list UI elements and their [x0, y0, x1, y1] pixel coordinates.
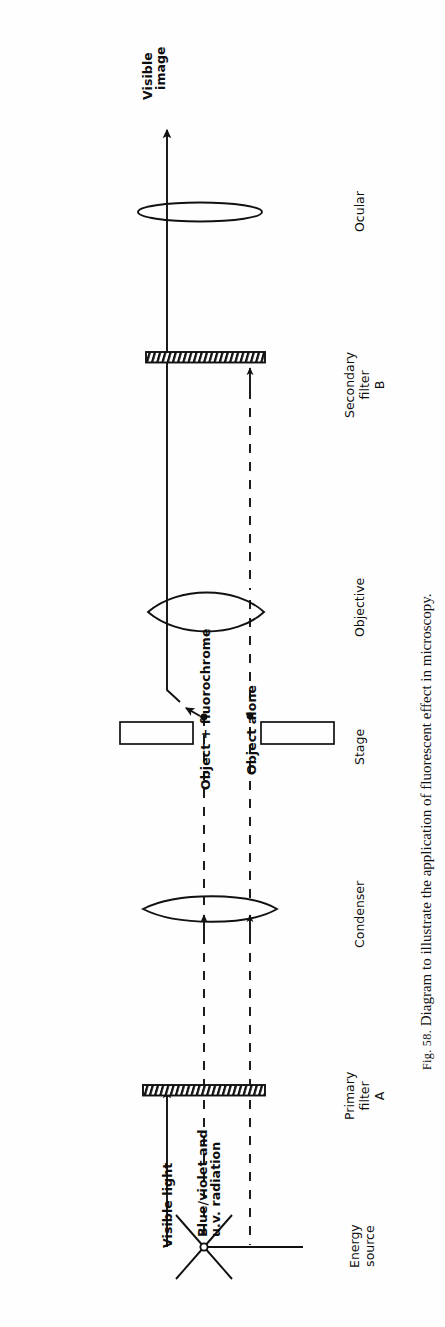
blue-violet-line2: u.v. radiation: [210, 1129, 223, 1237]
component-label-energy-source: Energy source: [347, 1224, 377, 1268]
visible-light-label: Visible light: [160, 1163, 175, 1248]
object-fluorochrome-ray: [167, 640, 200, 716]
objective-label-line1: Objective: [352, 578, 367, 637]
component-label-secondary-filter: Secondary filter B: [342, 352, 387, 418]
stage: [120, 722, 334, 744]
ocular-lens: [138, 203, 262, 222]
secondary-filter-line2: filter: [357, 352, 372, 418]
ocular-label-line1: Ocular: [352, 191, 367, 232]
figure-page: Visible image Visible light Blue/violet …: [0, 0, 445, 1327]
object-fluorochrome-label: Object + fluorochrome: [198, 628, 213, 790]
object-alone-label: Object alone: [244, 685, 259, 775]
component-label-condenser: Condenser: [352, 881, 367, 948]
component-label-stage: Stage: [352, 729, 367, 765]
blue-violet-label: Blue/violet and u.v. radiation: [197, 1129, 223, 1237]
primary-filter-line3: A: [372, 1072, 387, 1120]
condenser-lens: [143, 896, 277, 922]
primary-filter-line2: filter: [357, 1072, 372, 1120]
objective-lens: [148, 593, 264, 632]
energy-source-line2: source: [362, 1224, 377, 1268]
secondary-filter-bar: [146, 352, 265, 363]
secondary-filter-line1: Secondary: [342, 352, 357, 418]
figure-caption-text: Diagram to illustrate the application of…: [418, 593, 434, 1026]
figure-caption-prefix: Fig. 58.: [420, 1030, 434, 1070]
optical-diagram: [0, 0, 445, 1327]
primary-filter-bar: [143, 1085, 265, 1096]
condenser-label-line1: Condenser: [352, 881, 367, 948]
component-label-primary-filter: Primary filter A: [342, 1072, 387, 1120]
figure-caption: Fig. 58. Diagram to illustrate the appli…: [418, 593, 435, 1070]
component-label-ocular: Ocular: [352, 191, 367, 232]
component-label-objective: Objective: [352, 578, 367, 637]
stage-label-line1: Stage: [352, 729, 367, 765]
visible-image-label: Visible image: [142, 46, 168, 100]
primary-filter-line1: Primary: [342, 1072, 357, 1120]
secondary-filter-line3: B: [372, 352, 387, 418]
visible-image-line2: image: [155, 46, 168, 90]
energy-source-line1: Energy: [347, 1224, 362, 1268]
